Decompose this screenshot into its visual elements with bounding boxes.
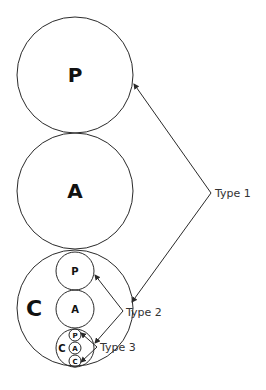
type2-label: Type 2: [125, 306, 162, 319]
label-mid-p: P: [71, 266, 78, 277]
type1-label: Type 1: [214, 187, 251, 200]
label-top-p: P: [68, 63, 83, 87]
type3-arrow-lower: [81, 347, 97, 362]
pac-diagram: P A C P A C P A C Type 1 Type 2 Type 3: [0, 0, 266, 390]
label-tiny-a: A: [72, 345, 78, 353]
label-mid-a: A: [71, 304, 79, 315]
label-big-c: C: [26, 296, 42, 321]
label-tiny-p: P: [72, 332, 77, 340]
type1-arrow-upper: [134, 84, 211, 193]
label-tiny-c: C: [72, 358, 77, 366]
type1-arrow-lower: [132, 193, 211, 302]
type3-label: Type 3: [99, 341, 136, 354]
label-small-c: C: [58, 343, 65, 354]
type2-arrow-lower: [95, 311, 123, 343]
label-top-a: A: [67, 179, 83, 203]
type2-arrow-upper: [95, 275, 123, 311]
